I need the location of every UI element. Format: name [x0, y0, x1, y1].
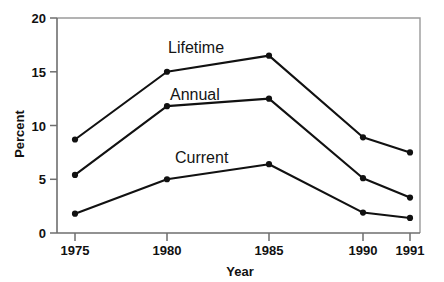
series-line-annual	[75, 99, 410, 198]
data-point	[407, 194, 413, 200]
data-point	[360, 209, 366, 215]
x-tick-label-1980: 1980	[153, 243, 182, 258]
series-line-current	[75, 164, 410, 218]
y-tick-label-0: 0	[39, 226, 46, 241]
y-tick-label-15: 15	[32, 65, 46, 80]
data-point	[266, 96, 272, 102]
chart-canvas: 20 15 10 5 0 1975 1980 1985 1990 1991 Pe…	[0, 0, 444, 282]
y-tick-label-20: 20	[32, 11, 46, 26]
line-chart: 20 15 10 5 0 1975 1980 1985 1990 1991 Pe…	[0, 0, 444, 282]
series-label-lifetime: Lifetime	[168, 39, 224, 56]
data-point	[407, 149, 413, 155]
x-tick-label-1975: 1975	[61, 243, 90, 258]
y-tick-label-5: 5	[39, 172, 46, 187]
x-axis-title: Year	[226, 264, 253, 279]
y-tick-label-10: 10	[32, 119, 46, 134]
data-point	[266, 53, 272, 59]
x-tick-label-1985: 1985	[255, 243, 284, 258]
data-point	[72, 211, 78, 217]
series-current	[72, 161, 413, 221]
data-point	[72, 136, 78, 142]
series-label-annual: Annual	[170, 86, 220, 103]
series-annual	[72, 96, 413, 201]
data-point	[164, 176, 170, 182]
data-point	[164, 103, 170, 109]
data-point	[164, 69, 170, 75]
series-label-current: Current	[175, 149, 229, 166]
data-point	[72, 172, 78, 178]
y-axis-title: Percent	[12, 109, 27, 157]
series-label-layer: Lifetime Annual Current	[168, 39, 229, 166]
data-point	[266, 161, 272, 167]
data-point	[360, 175, 366, 181]
x-tick-label-1990: 1990	[349, 243, 378, 258]
x-tick-label-1991: 1991	[396, 243, 425, 258]
data-point	[360, 134, 366, 140]
data-point	[407, 215, 413, 221]
series-layer	[72, 53, 413, 222]
